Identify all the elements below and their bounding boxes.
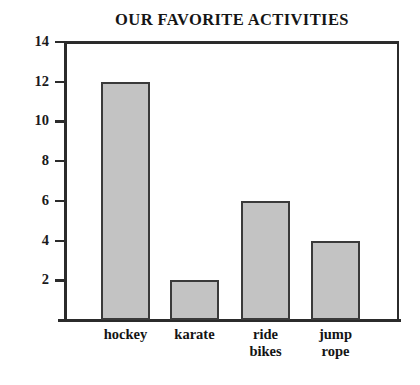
- x-axis-label-line: karate: [174, 326, 214, 342]
- y-axis-label-8: 8: [3, 152, 49, 169]
- y-axis-label-4: 4: [3, 232, 49, 249]
- x-axis-label-karate: karate: [155, 326, 235, 343]
- x-axis-label-line: rope: [296, 343, 376, 360]
- bar-jump-rope[interactable]: [311, 241, 360, 320]
- bar-chart: OUR FAVORITE ACTIVITIES 1412108642 hocke…: [0, 0, 420, 385]
- y-axis-label-10: 10: [3, 112, 49, 129]
- x-axis-label-line: ride: [253, 326, 278, 342]
- x-axis-label-jump-rope: jumprope: [296, 326, 376, 360]
- bar-karate[interactable]: [170, 280, 219, 320]
- y-axis-line: [64, 42, 67, 322]
- x-axis-label-line: bikes: [226, 343, 306, 360]
- y-axis-label-12: 12: [3, 73, 49, 90]
- bar-ride-bikes[interactable]: [241, 201, 290, 320]
- x-axis-label-line: hockey: [104, 326, 148, 342]
- x-axis-label-hockey: hockey: [86, 326, 166, 343]
- x-axis-label-ride-bikes: ridebikes: [226, 326, 306, 360]
- x-axis-label-line: jump: [319, 326, 352, 342]
- chart-title: OUR FAVORITE ACTIVITIES: [64, 10, 400, 30]
- bar-hockey[interactable]: [101, 82, 150, 320]
- y-axis-label-6: 6: [3, 192, 49, 209]
- y-axis-label-14: 14: [3, 33, 49, 50]
- y-axis-label-2: 2: [3, 271, 49, 288]
